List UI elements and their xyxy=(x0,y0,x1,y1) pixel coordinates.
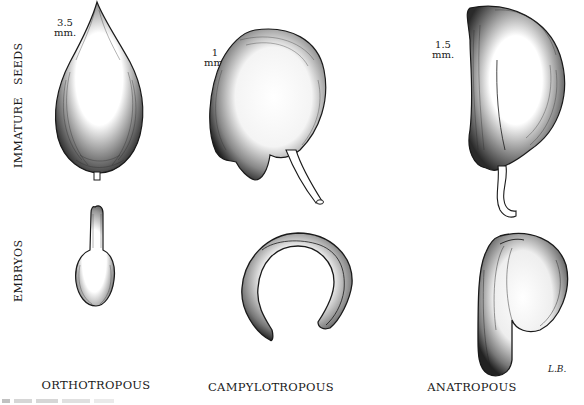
artist-signature: L.B. xyxy=(548,364,566,374)
column-label-anatropous: ANATROPOUS xyxy=(412,380,532,394)
orthotropous-seed-illustration xyxy=(0,0,584,405)
column-label-orthotropous: ORTHOTROPOUS xyxy=(36,378,156,392)
cropped-caption-text xyxy=(2,397,202,405)
figure-caption-cropped xyxy=(2,397,202,405)
column-label-campylotropous: CAMPYLOTROPOUS xyxy=(206,380,336,394)
